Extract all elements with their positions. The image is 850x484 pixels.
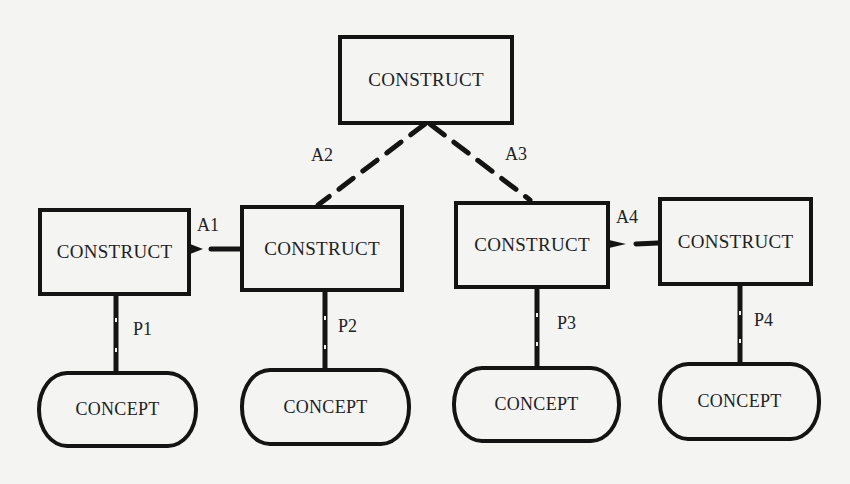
diagram-canvas: CONSTRUCT CONSTRUCT CONSTRUCT CONSTRUCT … [0,0,850,484]
concept-box-k3: CONCEPT [452,366,621,443]
concept-label: CONCEPT [494,394,578,415]
concept-label: CONCEPT [283,397,367,418]
concept-box-k1: CONCEPT [37,371,198,448]
postulate-label-p4: P4 [754,310,773,331]
construct-box-c1: CONSTRUCT [38,208,191,296]
top-construct-label: CONSTRUCT [368,69,484,91]
construct-box-c2: CONSTRUCT [240,205,404,292]
concept-box-k4: CONCEPT [658,362,821,441]
postulate-label-p2: P2 [338,316,357,337]
construct-label: CONSTRUCT [264,238,380,260]
construct-label: CONSTRUCT [57,241,173,263]
association-line-a1 [190,244,240,254]
association-label-a2: A2 [311,145,333,166]
association-line-a4 [609,240,658,248]
concept-label: CONCEPT [697,391,781,412]
construct-label: CONSTRUCT [474,234,590,256]
association-label-a3: A3 [505,144,527,165]
construct-box-c4: CONSTRUCT [658,197,813,286]
postulate-label-p3: P3 [557,313,576,334]
association-label-a1: A1 [197,215,219,236]
construct-label: CONSTRUCT [678,231,794,253]
concept-box-k2: CONCEPT [240,368,411,446]
construct-box-c3: CONSTRUCT [454,201,610,289]
top-construct-box: CONSTRUCT [338,35,514,125]
concept-label: CONCEPT [75,399,159,420]
association-line-a2 [318,124,425,205]
association-label-a4: A4 [616,207,638,228]
postulate-label-p1: P1 [133,319,152,340]
